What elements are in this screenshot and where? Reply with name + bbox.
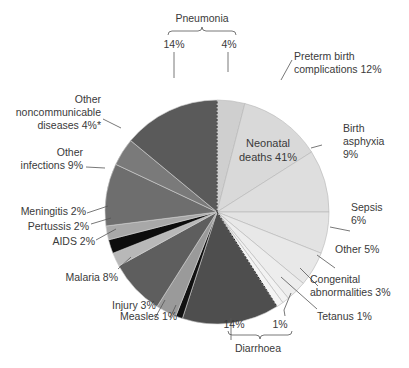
label-birth-asphyxia-2: asphyxia xyxy=(343,135,385,147)
pneumonia-bracket xyxy=(168,27,236,35)
diarrhoea-bracket xyxy=(228,331,292,339)
label-other-5: Other 5% xyxy=(335,243,379,255)
label-pneumonia: Pneumonia xyxy=(175,12,228,24)
label-pertussis: Pertussis 2% xyxy=(28,220,89,232)
label-birth-asphyxia-3: 9% xyxy=(343,148,358,160)
label-birth-asphyxia: Birth xyxy=(343,122,365,134)
label-other-infections: Other xyxy=(57,146,84,158)
center-label: Neonatal xyxy=(246,137,290,149)
label-pneumonia-14: 14% xyxy=(163,38,184,50)
label-preterm: Preterm birth xyxy=(294,50,355,62)
label-tetanus: Tetanus 1% xyxy=(317,310,372,322)
label-preterm-2: complications 12% xyxy=(294,63,382,75)
label-pneumonia-4: 4% xyxy=(221,38,236,50)
pie-slices xyxy=(105,100,329,324)
label-sepsis: Sepsis xyxy=(351,201,383,213)
label-meningitis: Meningitis 2% xyxy=(21,205,86,217)
label-ncd: Other xyxy=(75,93,102,105)
label-congenital-2: abnormalities 3% xyxy=(310,286,391,298)
label-measles: Measles 1% xyxy=(120,310,177,322)
label-malaria: Malaria 8% xyxy=(65,271,118,283)
label-congenital: Congenital xyxy=(310,273,360,285)
label-diarrhoea-1: 1% xyxy=(272,318,287,330)
label-aids: AIDS 2% xyxy=(52,235,95,247)
label-other-infections-2: infections 9% xyxy=(21,159,83,171)
center-label-2: deaths 41% xyxy=(239,151,297,163)
label-diarrhoea: Diarrhoea xyxy=(235,342,281,354)
label-sepsis-2: 6% xyxy=(351,214,366,226)
label-ncd-3: diseases 4%* xyxy=(37,119,101,131)
pie-chart: Pneumonia 14% 4% Preterm birth complicat… xyxy=(0,0,409,368)
label-diarrhoea-14: 14% xyxy=(223,318,244,330)
label-ncd-2: noncommunicable xyxy=(16,106,101,118)
